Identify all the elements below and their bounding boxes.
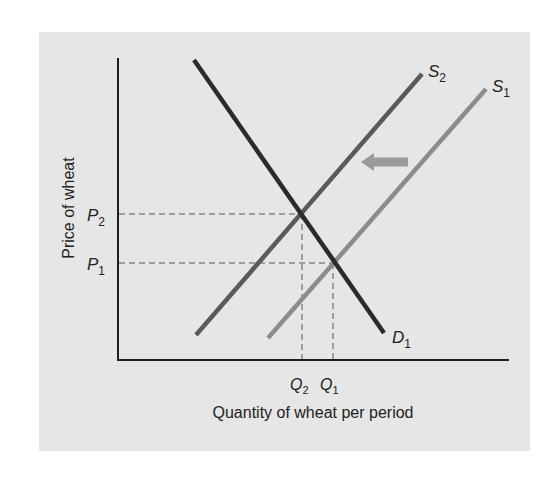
- tick-q2: Q2: [290, 376, 309, 396]
- x-axis-label: Quantity of wheat per period: [212, 404, 413, 421]
- guide-lines: [119, 214, 333, 359]
- left-arrow-icon: [361, 153, 408, 171]
- tick-p2: P2: [87, 206, 105, 229]
- label-s1: S1: [492, 77, 510, 100]
- tick-q1: Q1: [320, 376, 339, 396]
- label-s2: S2: [428, 62, 446, 85]
- y-axis-label: Price of wheat: [60, 157, 77, 259]
- supply-demand-chart: S2 S1 D1 P2 P1 Q2 Q1 Quantity of wheat p…: [0, 0, 547, 482]
- label-d1: D1: [392, 328, 411, 351]
- tick-p1: P1: [87, 255, 105, 278]
- demand-curve-d1: [194, 60, 384, 333]
